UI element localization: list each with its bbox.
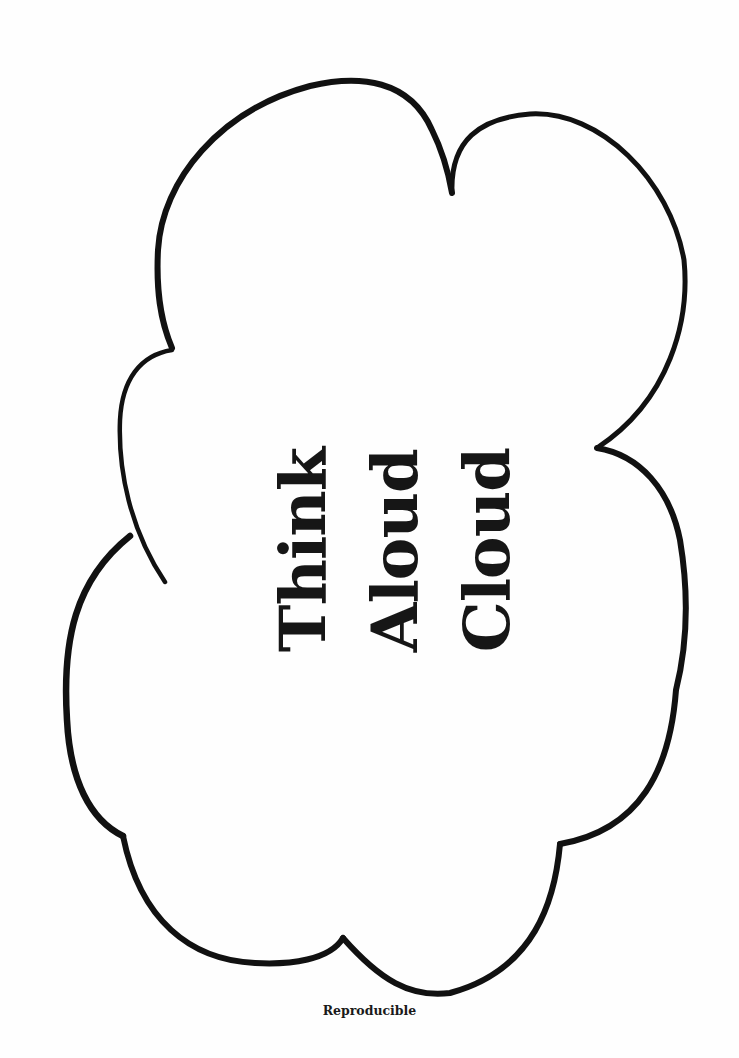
cloud-lobe-left-lower: [66, 536, 130, 836]
title-line-aloud: Aloud: [349, 448, 441, 652]
reproducible-footer: Reproducible: [0, 1003, 739, 1018]
cloud-lobe-bottom-left: [123, 836, 343, 963]
cloud-lobe-top-left: [158, 81, 452, 348]
title-line-cloud: Cloud: [441, 448, 533, 652]
cloud-lobe-bottom-right: [343, 844, 560, 994]
title-line-think: Think: [257, 448, 349, 652]
worksheet-page: Think Aloud Cloud Reproducible: [0, 0, 739, 1058]
cloud-lobe-right: [560, 448, 686, 844]
cloud-lobe-left-upper: [120, 350, 172, 582]
cloud-lobe-top-right: [452, 114, 685, 448]
cloud-title: Think Aloud Cloud: [257, 448, 533, 652]
